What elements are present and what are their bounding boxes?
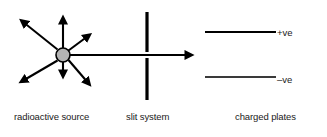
radioactivity-deflection-diagram: +ve –ve radioactive source slit system c… <box>0 0 327 137</box>
emission-ray-upper-right-arrow <box>69 38 87 51</box>
emission-rays-group <box>25 22 87 81</box>
caption-charged-plates: charged plates <box>235 111 296 122</box>
charged-plates-group <box>205 32 276 77</box>
emission-ray-lower-left-arrow <box>25 61 58 80</box>
radioactive-source-icon <box>56 48 70 62</box>
plate-positive-label: +ve <box>277 27 293 38</box>
plate-negative-label: –ve <box>277 74 292 85</box>
caption-radioactive-source: radioactive source <box>14 111 89 122</box>
emission-ray-upper-left-arrow <box>25 24 58 50</box>
emission-ray-lower-right-arrow <box>69 60 87 81</box>
caption-slit-system: slit system <box>126 111 169 122</box>
